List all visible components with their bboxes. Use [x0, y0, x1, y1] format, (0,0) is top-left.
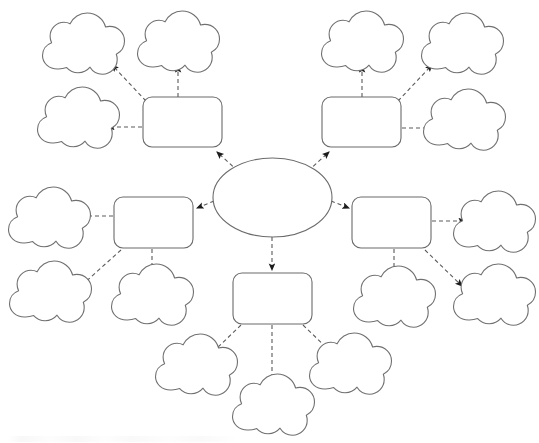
- cloud-node-mr-lower[interactable]: [354, 266, 436, 327]
- cloud-node-bot-center[interactable]: [233, 374, 315, 435]
- concept-map-diagram: [0, 0, 539, 443]
- connector-branch-top-left-to-cloud-upper-left: [112, 65, 146, 101]
- connector-center-to-branch-mid-right: [331, 201, 349, 208]
- cloud-node-tr-upper-left[interactable]: [322, 11, 404, 72]
- branch-node-mid-left[interactable]: [114, 197, 193, 248]
- center-node[interactable]: [213, 158, 332, 237]
- cloud-node-bot-right[interactable]: [310, 333, 392, 394]
- connector-branch-top-right-to-cloud-upper-right: [398, 65, 432, 101]
- cloud-node-bot-left[interactable]: [156, 334, 238, 395]
- cloud-node-ml-lower-left[interactable]: [10, 261, 92, 322]
- branch-box[interactable]: [352, 197, 431, 248]
- cloud-node-ml-lower[interactable]: [112, 264, 194, 325]
- center-topic-ellipse[interactable]: [213, 158, 332, 237]
- connector-branch-mid-right-to-cloud-lower-right: [425, 250, 462, 286]
- cloud-node-tr-upper-right[interactable]: [422, 13, 504, 74]
- cloud-node-ml-left[interactable]: [9, 187, 91, 248]
- branch-box[interactable]: [233, 273, 312, 324]
- branch-box[interactable]: [322, 97, 401, 147]
- cloud-node-mr-right[interactable]: [454, 191, 536, 252]
- cloud-node-tl-upper-left[interactable]: [43, 13, 125, 74]
- cloud-node-mr-lower-right[interactable]: [454, 264, 536, 325]
- cloud-node-tl-left[interactable]: [38, 87, 120, 148]
- branch-node-top-right[interactable]: [322, 97, 401, 147]
- branch-node-mid-right[interactable]: [352, 197, 431, 248]
- branch-box[interactable]: [114, 197, 193, 248]
- concept-map-canvas: [0, 0, 539, 443]
- branch-node-bottom[interactable]: [233, 273, 312, 324]
- connector-center-to-branch-mid-left: [197, 201, 214, 208]
- cloud-node-tl-upper-right[interactable]: [138, 11, 220, 72]
- branch-box[interactable]: [143, 97, 222, 147]
- branch-node-top-left[interactable]: [143, 97, 222, 147]
- cloud-node-tr-right[interactable]: [424, 89, 506, 150]
